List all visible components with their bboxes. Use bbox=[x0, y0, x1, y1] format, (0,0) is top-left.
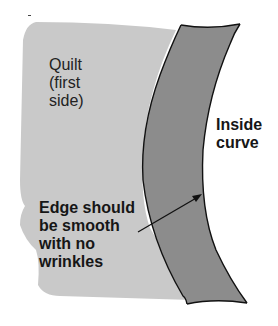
binding-diagram bbox=[0, 0, 278, 326]
edge-note-line-1: Edge should bbox=[39, 199, 135, 217]
edge-note-line-4: wrinkles bbox=[39, 253, 135, 271]
inside-curve-label: Inside curve bbox=[216, 116, 262, 152]
quilt-label-line-1: Quilt bbox=[49, 56, 84, 74]
inside-curve-line-2: curve bbox=[216, 134, 262, 152]
edge-note-line-2: be smooth bbox=[39, 217, 135, 235]
stray-mark bbox=[28, 15, 31, 16]
edge-note-label: Edge should be smooth with no wrinkles bbox=[39, 199, 135, 271]
quilt-label: Quilt (first side) bbox=[49, 56, 84, 110]
quilt-label-line-2: (first bbox=[49, 74, 84, 92]
quilt-label-line-3: side) bbox=[49, 92, 84, 110]
inside-curve-line-1: Inside bbox=[216, 116, 262, 134]
edge-note-line-3: with no bbox=[39, 235, 135, 253]
